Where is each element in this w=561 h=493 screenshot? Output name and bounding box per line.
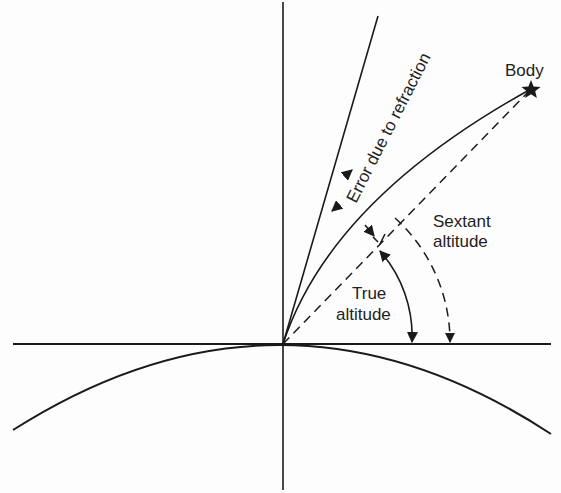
error-tick	[373, 237, 378, 242]
sextant-label-line2: altitude	[433, 232, 488, 251]
true-label-line1: True	[352, 284, 386, 303]
sextant-label-line1: Sextant	[433, 212, 491, 231]
body-label: Body	[505, 61, 544, 80]
earth-surface-arc	[13, 345, 551, 434]
true-label-line2: altitude	[336, 305, 391, 324]
refraction-diagram: Body Error due to refraction Sextant alt…	[0, 0, 561, 493]
diagram-canvas: Body Error due to refraction Sextant alt…	[0, 0, 561, 493]
error-arrow-upper-2	[332, 205, 339, 211]
error-arrow-upper	[345, 170, 352, 176]
error-arrow-lower	[365, 225, 374, 236]
error-label: Error due to refraction	[343, 50, 435, 206]
